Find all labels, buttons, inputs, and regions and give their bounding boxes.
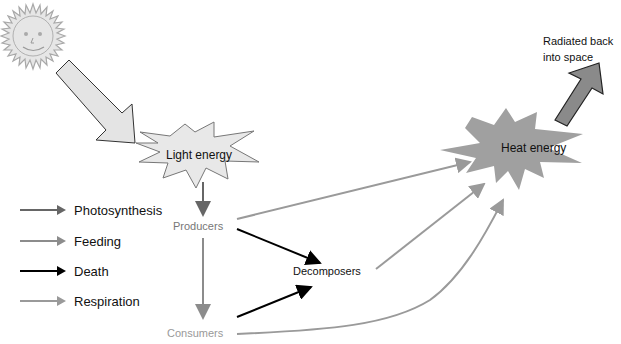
arrow-respiration-producers xyxy=(237,162,470,219)
light-energy-label: Light energy xyxy=(166,148,232,162)
radiated-label-line2: into space xyxy=(543,51,593,63)
legend-label: Feeding xyxy=(74,234,121,249)
legend-item-respiration: Respiration xyxy=(20,292,140,310)
legend-label: Death xyxy=(74,264,109,279)
legend-label: Respiration xyxy=(74,294,140,309)
consumers-label: Consumers xyxy=(167,327,223,339)
radiated-label-line1: Radiated back xyxy=(543,35,613,47)
sunlight-arrow xyxy=(56,60,135,143)
legend-item-feeding: Feeding xyxy=(20,232,121,250)
legend-item-death: Death xyxy=(20,262,109,280)
legend-arrow-icon xyxy=(20,295,66,307)
legend-arrow-icon xyxy=(20,265,66,277)
legend-arrow-icon xyxy=(20,204,66,216)
arrow-respiration-decomposers xyxy=(376,184,484,269)
arrow-death-producers xyxy=(237,229,320,263)
radiated-arrow xyxy=(555,63,603,126)
arrow-death-consumers xyxy=(237,287,311,317)
heat-energy-label: Heat energy xyxy=(501,141,566,155)
legend-label: Photosynthesis xyxy=(74,203,162,218)
sun-icon xyxy=(1,4,65,69)
legend-arrow-icon xyxy=(20,235,66,247)
legend-item-photosynthesis: Photosynthesis xyxy=(20,201,162,219)
decomposers-label: Decomposers xyxy=(293,265,361,277)
producers-label: Producers xyxy=(173,220,223,232)
arrow-respiration-consumers xyxy=(237,200,503,334)
